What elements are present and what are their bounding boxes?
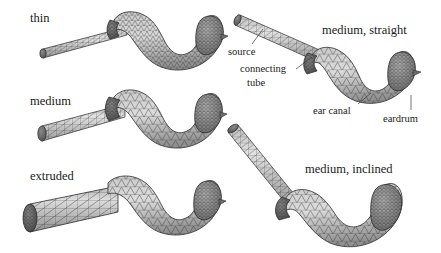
- thin-eardrum: [196, 16, 228, 55]
- label-extruded: extruded: [30, 170, 74, 183]
- extruded-connecting-tube: [23, 186, 118, 232]
- label-medium-inclined: medium, inclined: [305, 163, 392, 176]
- label-source: source: [228, 47, 255, 58]
- label-ear-canal: ear canal: [313, 106, 351, 117]
- mesh-models-canvas: [0, 0, 441, 253]
- inclined-connecting-tube: [226, 122, 298, 205]
- label-connecting-tube-line1: connecting: [240, 64, 286, 75]
- medium-eardrum: [195, 94, 227, 133]
- label-medium: medium: [30, 95, 71, 108]
- label-connecting-tube-line2: tube: [247, 78, 265, 89]
- straight-eardrum: [388, 52, 421, 91]
- extruded-eardrum: [194, 181, 226, 220]
- model-extruded: [23, 176, 226, 235]
- model-medium-inclined: [226, 122, 402, 246]
- label-medium-straight: medium, straight: [322, 24, 407, 37]
- label-eardrum: eardrum: [383, 114, 418, 125]
- model-thin: [40, 12, 228, 70]
- inclined-eardrum: [371, 184, 402, 230]
- label-thin: thin: [30, 12, 49, 25]
- ear-canal-mesh-figure: thin medium extruded medium, straight me…: [0, 0, 441, 253]
